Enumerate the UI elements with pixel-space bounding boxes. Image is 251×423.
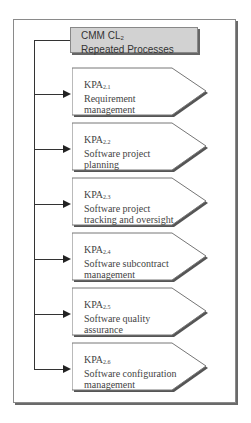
kpa-line1: Requirement bbox=[84, 93, 194, 104]
kpa-sub: 2.2 bbox=[103, 139, 111, 145]
header-connector-horizontal bbox=[34, 40, 70, 41]
kpa-prefix: KPA bbox=[84, 244, 103, 255]
kpa-line2: tracking and oversight bbox=[84, 214, 194, 225]
kpa-sub: 2.4 bbox=[103, 249, 111, 255]
kpa-line2: management bbox=[84, 104, 194, 115]
branch-connector-4 bbox=[34, 259, 64, 260]
kpa-prefix: KPA bbox=[84, 354, 103, 365]
kpa-prefix: KPA bbox=[84, 299, 103, 310]
arrow-icon bbox=[63, 310, 71, 318]
cmm-level-header: CMM CL2 Repeated Processes bbox=[70, 27, 198, 53]
kpa-line1: Software subcontract bbox=[84, 258, 194, 269]
kpa-line2: assurance bbox=[84, 324, 194, 335]
kpa-label: KPA2.3 Software project tracking and ove… bbox=[84, 189, 194, 225]
kpa-line2: planning bbox=[84, 159, 194, 170]
kpa-label: KPA2.6 Software configuration management bbox=[84, 354, 194, 390]
kpa-box-2-1: KPA2.1 Requirement management bbox=[72, 67, 208, 117]
header-title-prefix: CMM CL bbox=[81, 30, 120, 41]
arrow-icon bbox=[63, 365, 71, 373]
arrow-icon bbox=[63, 255, 71, 263]
arrow-icon bbox=[63, 90, 71, 98]
kpa-label: KPA2.1 Requirement management bbox=[84, 79, 194, 115]
branch-connector-5 bbox=[34, 314, 64, 315]
branch-connector-1 bbox=[34, 94, 64, 95]
kpa-sub: 2.1 bbox=[103, 84, 111, 90]
branch-connector-6 bbox=[34, 369, 64, 370]
kpa-prefix: KPA bbox=[84, 134, 103, 145]
kpa-line2: management bbox=[84, 269, 194, 280]
kpa-label: KPA2.2 Software project planning bbox=[84, 134, 194, 170]
arrow-icon bbox=[63, 200, 71, 208]
kpa-line1: Software project bbox=[84, 203, 194, 214]
branch-connector-2 bbox=[34, 149, 64, 150]
main-connector-vertical bbox=[34, 40, 35, 370]
kpa-line1: Software quality bbox=[84, 313, 194, 324]
kpa-prefix: KPA bbox=[84, 79, 103, 90]
kpa-label: KPA2.4 Software subcontract management bbox=[84, 244, 194, 280]
kpa-line1: Software project bbox=[84, 148, 194, 159]
kpa-line2: management bbox=[84, 379, 194, 390]
kpa-box-2-4: KPA2.4 Software subcontract management bbox=[72, 232, 208, 282]
kpa-box-2-5: KPA2.5 Software quality assurance bbox=[72, 287, 208, 337]
kpa-line1: Software configuration bbox=[84, 368, 194, 379]
kpa-box-2-2: KPA2.2 Software project planning bbox=[72, 122, 208, 172]
kpa-prefix: KPA bbox=[84, 189, 103, 200]
kpa-label: KPA2.5 Software quality assurance bbox=[84, 299, 194, 335]
kpa-box-2-6: KPA2.6 Software configuration management bbox=[72, 342, 208, 392]
kpa-sub: 2.3 bbox=[103, 194, 111, 200]
branch-connector-3 bbox=[34, 204, 64, 205]
arrow-icon bbox=[63, 145, 71, 153]
header-subtitle: Repeated Processes bbox=[81, 44, 197, 55]
kpa-sub: 2.6 bbox=[103, 359, 111, 365]
kpa-sub: 2.5 bbox=[103, 304, 111, 310]
header-title-sub: 2 bbox=[120, 35, 123, 41]
header-title: CMM CL2 bbox=[81, 30, 197, 44]
kpa-box-2-3: KPA2.3 Software project tracking and ove… bbox=[72, 177, 208, 227]
